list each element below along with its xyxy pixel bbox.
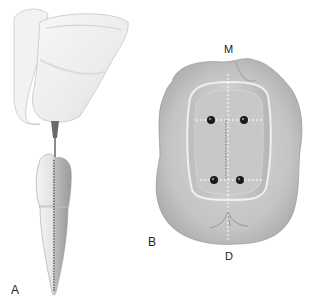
distal-label: D — [225, 251, 233, 262]
canal-orifice-mesiobuccal — [207, 116, 215, 124]
glove-finger-front — [32, 14, 128, 122]
file-handle-tip — [51, 121, 59, 138]
panel-a-illustration — [14, 9, 128, 295]
orifice-highlight — [209, 118, 211, 120]
panel-b-illustration — [156, 59, 302, 245]
orifice-highlight — [212, 178, 214, 180]
cavity-inner-wall — [195, 90, 264, 194]
panel-label-b: B — [148, 236, 156, 248]
panel-label-a: A — [11, 284, 19, 296]
canal-orifice-mesiolingual — [240, 116, 248, 124]
canal-orifice-distolingual — [236, 176, 244, 184]
mesial-label: M — [224, 44, 233, 55]
dental-illustration — [0, 0, 320, 307]
tooth-crown — [36, 154, 71, 208]
orifice-highlight — [238, 178, 240, 180]
canal-orifice-distobuccal — [210, 176, 218, 184]
orifice-highlight — [242, 118, 244, 120]
